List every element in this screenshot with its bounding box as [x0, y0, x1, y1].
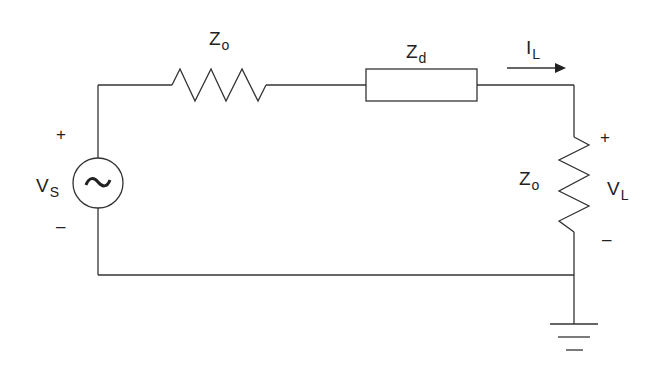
source-plus-sign: +	[56, 125, 66, 144]
series-resistor-icon	[172, 69, 266, 101]
source-voltage-label: VS	[36, 175, 59, 200]
device-impedance-box-icon	[366, 69, 477, 101]
circuit-diagram: Zo Zd IL + VS – Zo + VL –	[0, 0, 664, 369]
series-resistor-label: Zo	[209, 28, 230, 53]
ground-icon	[550, 324, 598, 350]
device-impedance-label: Zd	[406, 41, 426, 66]
load-plus-sign: +	[600, 128, 610, 147]
current-label: IL	[526, 37, 540, 62]
ac-source-icon	[73, 158, 123, 208]
load-resistor-icon	[559, 137, 589, 232]
load-voltage-label: VL	[607, 178, 629, 203]
current-arrow-icon	[507, 63, 566, 73]
load-resistor-label: Zo	[519, 168, 540, 193]
source-minus-sign: –	[56, 217, 66, 236]
load-minus-sign: –	[602, 230, 612, 249]
wires	[98, 85, 574, 324]
